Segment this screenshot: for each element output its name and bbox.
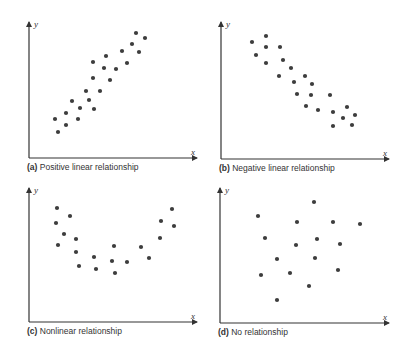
data-point — [120, 49, 124, 53]
data-point — [303, 74, 307, 78]
data-point — [92, 255, 96, 259]
data-point — [331, 124, 335, 128]
x-axis-label: x — [190, 147, 195, 157]
data-point — [134, 31, 138, 35]
y-axis-label: y — [225, 19, 230, 29]
data-point — [307, 284, 311, 288]
data-point — [295, 220, 299, 224]
x-axis-label: x — [190, 311, 195, 321]
data-point — [55, 206, 59, 210]
data-point — [313, 256, 317, 260]
data-point — [159, 219, 163, 223]
data-point — [98, 89, 102, 93]
data-point — [62, 232, 66, 236]
y-axis-label: y — [33, 19, 38, 29]
panel-title: Positive linear relationship — [37, 162, 138, 172]
data-point — [125, 61, 129, 65]
panel-caption: (d) No relationship — [218, 327, 288, 337]
data-point — [292, 80, 296, 84]
data-point — [137, 50, 141, 54]
data-point — [70, 99, 74, 103]
panel-caption: (c) Nonlinear relationship — [27, 326, 122, 336]
data-point — [256, 214, 260, 218]
data-point — [54, 221, 58, 225]
data-point — [254, 53, 258, 57]
data-point — [114, 67, 118, 71]
panel-title: No relationship — [229, 327, 288, 337]
data-point — [64, 123, 68, 127]
data-point — [68, 214, 72, 218]
data-point — [172, 224, 176, 228]
data-point — [130, 42, 134, 46]
data-point — [358, 222, 362, 226]
data-point — [125, 260, 129, 264]
data-point — [289, 66, 293, 70]
data-point — [53, 117, 57, 121]
data-point — [158, 236, 162, 240]
data-point — [264, 34, 268, 38]
data-point — [170, 207, 174, 211]
data-point — [331, 110, 335, 114]
panel-letter: (d) — [218, 327, 229, 337]
data-point — [91, 60, 95, 64]
data-point — [264, 45, 268, 49]
data-point — [309, 93, 313, 97]
data-point — [104, 54, 108, 58]
data-point — [56, 243, 60, 247]
panel-letter: (b) — [219, 163, 230, 173]
data-point — [110, 259, 114, 263]
y-axis-label: y — [224, 185, 229, 195]
data-point — [310, 82, 314, 86]
data-point — [91, 76, 95, 80]
scatter-panel-a: yx(a) Positive linear relationship — [27, 19, 197, 172]
scatter-panel-b: yx(b) Negative linear relationship — [219, 19, 389, 173]
data-point — [281, 58, 285, 62]
data-point — [312, 200, 316, 204]
data-point — [350, 123, 354, 127]
data-point — [250, 40, 254, 44]
data-point — [94, 267, 98, 271]
panel-caption: (b) Negative linear relationship — [219, 163, 335, 173]
panel-title: Negative linear relationship — [230, 163, 335, 173]
data-point — [92, 107, 96, 111]
data-point — [78, 106, 82, 110]
data-point — [341, 116, 345, 120]
data-point — [294, 243, 298, 247]
data-point — [74, 237, 78, 241]
data-point — [263, 236, 267, 240]
data-point — [328, 93, 332, 97]
data-point — [278, 45, 282, 49]
data-point — [76, 117, 80, 121]
data-point — [74, 250, 78, 254]
data-point — [112, 244, 116, 248]
data-point — [315, 237, 319, 241]
data-point — [264, 61, 268, 65]
data-point — [143, 36, 147, 40]
data-point — [277, 74, 281, 78]
data-point — [64, 111, 68, 115]
y-axis-label: y — [33, 185, 38, 195]
data-point — [113, 271, 117, 275]
data-point — [56, 130, 60, 134]
panel-title: Nonlinear relationship — [37, 326, 122, 336]
x-axis-label: x — [382, 312, 387, 322]
scatter-figure: yx(a) Positive linear relationshipyx(b) … — [0, 0, 412, 355]
data-point — [77, 264, 81, 268]
panel-caption: (a) Positive linear relationship — [27, 162, 139, 172]
scatter-panel-d: yx(d) No relationship — [218, 185, 389, 337]
data-point — [139, 245, 143, 249]
data-point — [304, 104, 308, 108]
data-point — [353, 113, 357, 117]
x-axis-label: x — [382, 148, 387, 158]
panel-letter: (c) — [27, 326, 38, 336]
scatter-panel-c: yx(c) Nonlinear relationship — [27, 185, 197, 336]
data-point — [84, 89, 88, 93]
data-point — [288, 271, 292, 275]
data-point — [147, 256, 151, 260]
data-point — [259, 273, 263, 277]
data-point — [338, 242, 342, 246]
data-point — [345, 105, 349, 109]
data-point — [316, 108, 320, 112]
data-point — [102, 66, 106, 70]
data-point — [108, 78, 112, 82]
